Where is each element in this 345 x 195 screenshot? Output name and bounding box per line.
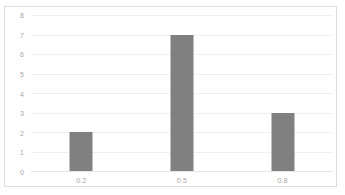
x-axis-tick-label: 0.5 bbox=[177, 177, 187, 184]
x-axis-tick-label: 0.2 bbox=[76, 177, 86, 184]
y-axis-tick-label: 1 bbox=[20, 149, 24, 156]
y-axis-tick-label: 3 bbox=[20, 110, 24, 117]
y-axis-tick-label: 4 bbox=[20, 90, 24, 97]
gridline: 0 bbox=[31, 171, 333, 172]
bar[interactable] bbox=[170, 35, 193, 172]
y-axis-tick-label: 2 bbox=[20, 129, 24, 136]
x-axis-tick-label: 0.8 bbox=[277, 177, 287, 184]
bar[interactable] bbox=[70, 132, 93, 171]
bar[interactable] bbox=[271, 113, 294, 172]
chart-frame: 012345678 0.20.50.8 bbox=[4, 6, 337, 187]
bars-group: 0.20.50.8 bbox=[31, 15, 333, 171]
y-axis-tick-label: 7 bbox=[20, 31, 24, 38]
bar-slot: 0.5 bbox=[132, 15, 233, 171]
plot-area: 012345678 0.20.50.8 bbox=[31, 15, 333, 171]
y-axis-tick-label: 8 bbox=[20, 12, 24, 19]
bar-slot: 0.2 bbox=[31, 15, 132, 171]
y-axis-tick-label: 0 bbox=[20, 169, 24, 176]
y-axis-tick-label: 6 bbox=[20, 51, 24, 58]
bar-slot: 0.8 bbox=[232, 15, 333, 171]
y-axis-tick-label: 5 bbox=[20, 70, 24, 77]
